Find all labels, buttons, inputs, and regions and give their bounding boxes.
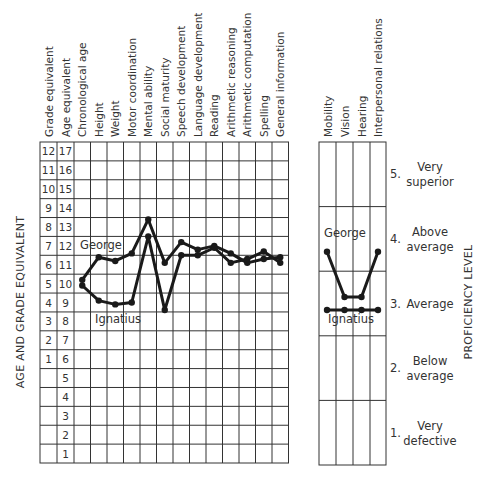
- grade-value: 11: [42, 164, 55, 176]
- age-value: 8: [62, 315, 69, 327]
- level-label: Very: [417, 160, 443, 174]
- profile-chart: Grade equivalentAge equivalentChronologi…: [0, 0, 493, 487]
- level-label: Below: [413, 354, 448, 368]
- age-value: 14: [59, 202, 73, 214]
- data-point: [129, 250, 135, 256]
- grade-value: 4: [45, 297, 52, 309]
- grade-value: 9: [45, 202, 52, 214]
- data-point: [244, 256, 250, 262]
- level-label: average: [406, 240, 453, 254]
- column-header-age-equivalent: Age equivalent: [60, 58, 72, 137]
- data-point: [145, 216, 151, 222]
- column-header-arithmetic-computation: Arithmetic computation: [241, 13, 253, 137]
- age-value: 3: [62, 410, 69, 422]
- age-value: 11: [59, 259, 72, 271]
- column-header-vision: Vision: [339, 106, 351, 137]
- grade-value: 2: [45, 334, 52, 346]
- proficiency-levels: 5.Verysuperior4.Aboveaverage3.Average2.B…: [390, 160, 457, 447]
- data-point: [358, 294, 364, 300]
- level-label: superior: [406, 175, 454, 189]
- data-point: [261, 248, 267, 254]
- y-axis-label-age-grade: AGE AND GRADE EQUIVALENT: [14, 216, 27, 389]
- data-point: [145, 233, 151, 239]
- data-point: [96, 254, 102, 260]
- grade-value: 3: [45, 315, 52, 327]
- grade-value: 8: [45, 221, 52, 233]
- right-grid: [319, 142, 386, 465]
- y-axis-label-proficiency: PROFICIENCY LEVEL: [462, 244, 475, 360]
- data-point: [96, 297, 102, 303]
- data-point: [112, 301, 118, 307]
- level-number: 5.: [390, 167, 401, 181]
- column-header-arithmetic-reasoning: Arithmetic reasoning: [225, 27, 237, 137]
- age-value: 17: [59, 145, 72, 157]
- left-series: [79, 216, 283, 313]
- age-value: 16: [59, 164, 73, 176]
- level-label: Average: [406, 297, 453, 311]
- column-header-reading: Reading: [208, 94, 220, 137]
- age-value: 2: [62, 429, 69, 441]
- george-label-left: George: [80, 238, 122, 252]
- age-value: 12: [59, 240, 72, 252]
- data-point: [277, 254, 283, 260]
- data-point: [112, 258, 118, 264]
- column-header-hearing: Hearing: [356, 96, 368, 137]
- data-point: [79, 277, 85, 283]
- data-point: [79, 282, 85, 288]
- level-label: average: [406, 369, 453, 383]
- age-value: 15: [59, 183, 72, 195]
- age-value: 9: [62, 297, 69, 309]
- grade-value: 6: [45, 259, 52, 271]
- data-point: [178, 252, 184, 258]
- column-header-grade-equivalent: Grade equivalent: [43, 46, 55, 137]
- level-label: defective: [403, 434, 456, 448]
- column-header-weight: Weight: [109, 100, 121, 137]
- age-value: 4: [62, 391, 69, 403]
- ignatius-label-right: Ignatius: [328, 312, 374, 326]
- data-point: [195, 252, 201, 258]
- column-header-language-development: Language development: [192, 13, 204, 137]
- grade-value: 1: [45, 353, 52, 365]
- data-point: [324, 249, 330, 255]
- grade-value: 5: [45, 278, 52, 290]
- data-point: [341, 294, 347, 300]
- level-number: 4.: [390, 232, 401, 246]
- george-label-right: George: [324, 226, 366, 240]
- data-point: [211, 245, 217, 251]
- data-point: [129, 299, 135, 305]
- column-header-spelling: Spelling: [258, 95, 270, 137]
- column-header-motor-coordination: Motor coordination: [126, 38, 138, 137]
- grade-value: 7: [45, 240, 52, 252]
- column-header-chronological-age: Chronological age: [76, 42, 88, 137]
- grade-value: 10: [42, 183, 55, 195]
- right-column-headers: MobilityVisionHearingInterpersonal relat…: [322, 18, 385, 137]
- data-point: [228, 250, 234, 256]
- level-number: 2.: [390, 361, 401, 375]
- column-header-interpersonal-relations: Interpersonal relations: [372, 18, 384, 137]
- data-point: [228, 260, 234, 266]
- age-value: 7: [62, 334, 69, 346]
- level-label: Above: [412, 225, 448, 239]
- age-value: 5: [62, 372, 69, 384]
- level-label: Very: [417, 419, 443, 433]
- left-column-headers: Grade equivalentAge equivalentChronologi…: [43, 13, 287, 137]
- data-point: [178, 239, 184, 245]
- age-value: 13: [59, 221, 72, 233]
- age-value: 1: [62, 448, 69, 460]
- column-header-mobility: Mobility: [322, 96, 334, 137]
- data-point: [375, 249, 381, 255]
- age-value: 10: [59, 278, 72, 290]
- column-header-general-information: General information: [274, 32, 286, 137]
- data-point: [162, 307, 168, 313]
- column-header-social-maturity: Social maturity: [159, 58, 171, 137]
- data-point: [261, 256, 267, 262]
- data-point: [162, 260, 168, 266]
- age-value: 6: [62, 353, 69, 365]
- column-header-speech-development: Speech development: [175, 26, 187, 137]
- data-point: [375, 307, 381, 313]
- grade-value: 12: [42, 145, 55, 157]
- column-header-height: Height: [93, 102, 105, 137]
- level-number: 3.: [390, 297, 401, 311]
- data-point: [277, 260, 283, 266]
- ignatius-label-left: Ignatius: [95, 312, 141, 326]
